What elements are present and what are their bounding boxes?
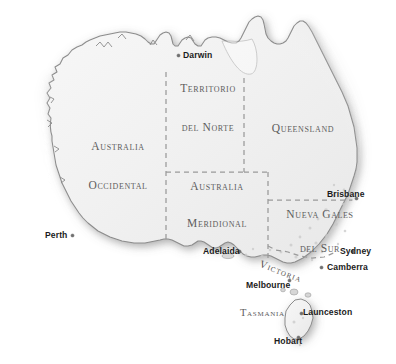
region-label-northern-territory[interactable]: Territorio del Norte bbox=[162, 80, 254, 135]
city-label-camberra[interactable]: Camberra bbox=[327, 262, 368, 272]
region-label-south-australia-line1: Australia bbox=[166, 178, 268, 195]
city-label-adelaida[interactable]: Adelaida bbox=[203, 246, 240, 256]
region-label-south-australia-line2: Meridional bbox=[166, 215, 268, 232]
region-label-western-australia-line1: Australia bbox=[60, 138, 176, 155]
city-label-perth[interactable]: Perth bbox=[45, 230, 67, 240]
region-label-northern-territory-line2: del Norte bbox=[162, 119, 254, 136]
city-label-melbourne[interactable]: Melbourne bbox=[246, 280, 290, 290]
region-label-western-australia-line2: Occidental bbox=[60, 177, 176, 194]
city-label-launceston[interactable]: Launceston bbox=[303, 307, 352, 317]
city-label-brisbane[interactable]: Brisbane bbox=[327, 189, 365, 199]
region-label-queensland[interactable]: Queensland bbox=[248, 120, 358, 137]
region-label-south-australia[interactable]: Australia Meridional bbox=[166, 178, 268, 231]
tasmania-island-group bbox=[285, 299, 313, 339]
region-label-tasmania[interactable]: Tasmania bbox=[240, 307, 285, 318]
region-label-new-south-wales-line1: Nueva Gales bbox=[265, 206, 375, 223]
australia-map: Australia Occidental Territorio del Nort… bbox=[0, 0, 396, 364]
city-label-hobart[interactable]: Hobart bbox=[274, 336, 302, 346]
region-label-queensland-line1: Queensland bbox=[248, 120, 358, 137]
city-label-sydney[interactable]: Sydney bbox=[340, 246, 371, 256]
region-label-northern-territory-line1: Territorio bbox=[162, 80, 254, 97]
region-label-western-australia[interactable]: Australia Occidental bbox=[60, 138, 176, 193]
tasmania-island bbox=[285, 299, 313, 339]
city-label-darwin[interactable]: Darwin bbox=[183, 50, 212, 60]
